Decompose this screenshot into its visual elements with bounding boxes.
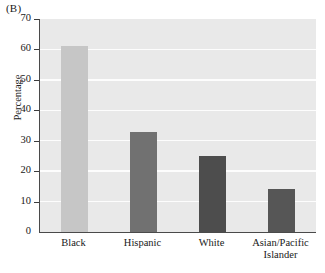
bar (61, 46, 88, 232)
y-axis-tick-mark (34, 110, 39, 111)
y-axis-tick-mark (34, 171, 39, 172)
y-axis-tick-label: 30 (5, 135, 31, 146)
y-axis-tick-label: 40 (5, 104, 31, 115)
plot-area (39, 19, 316, 233)
y-axis-tick-mark (34, 202, 39, 203)
y-axis-tick-label: 10 (5, 196, 31, 207)
y-axis-tick-label: 20 (5, 165, 31, 176)
bar (268, 189, 295, 232)
x-axis-tick-label-line: Islander (236, 249, 325, 261)
y-axis-tick-label: 70 (5, 13, 31, 24)
figure-panel-b: (B) Percentage 010203040506070 BlackHisp… (0, 0, 325, 273)
bar (130, 132, 157, 232)
x-axis-tick-label-line: Asian/Pacific (252, 237, 309, 248)
y-axis-tick-label: 60 (5, 43, 31, 54)
y-axis-tick-label: 50 (5, 74, 31, 85)
x-axis-tick-label: Asian/PacificIslander (236, 237, 325, 261)
bar (199, 156, 226, 232)
y-axis-tick-mark (34, 80, 39, 81)
y-axis-tick-labels: 010203040506070 (0, 0, 31, 273)
x-axis-tick-label-line: White (199, 237, 225, 248)
y-axis-tick-mark (34, 19, 39, 20)
y-axis-tick-mark (34, 49, 39, 50)
x-axis-tick-label-line: Hispanic (124, 237, 161, 248)
y-axis-tick-label: 0 (5, 226, 31, 237)
y-axis-tick-mark (34, 141, 39, 142)
x-axis-tick-label-line: Black (61, 237, 86, 248)
